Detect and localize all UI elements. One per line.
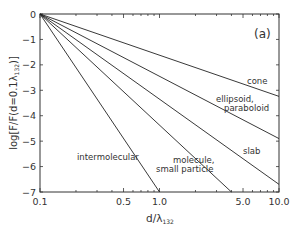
x-tick-label: 1.0 xyxy=(152,196,167,207)
y-tick-label: −7 xyxy=(22,187,36,198)
y-tick-label: −3 xyxy=(22,85,36,96)
series-label: intermolecular xyxy=(77,152,139,162)
series-label: slab xyxy=(243,146,260,156)
x-tick-label: 10.0 xyxy=(268,196,289,207)
series-line-ellipsoid-paraboloid xyxy=(40,14,279,139)
y-tick-label: −5 xyxy=(22,136,36,147)
chart-svg: 0.10.51.05.010.00−1−2−3−4−5−6−7coneellip… xyxy=(0,0,294,227)
series-line-cone xyxy=(40,14,279,96)
y-axis-label: log[F/F(d=0.1λ132)] xyxy=(8,56,20,150)
series-label: cone xyxy=(247,76,268,86)
y-tick-label: −4 xyxy=(22,110,36,121)
y-tick-label: −6 xyxy=(22,161,36,172)
y-tick-label: −2 xyxy=(22,59,36,70)
y-tick-label: 0 xyxy=(30,9,36,20)
x-tick-label: 5.0 xyxy=(235,196,250,207)
chart: 0.10.51.05.010.00−1−2−3−4−5−6−7coneellip… xyxy=(0,0,294,227)
y-tick-label: −1 xyxy=(22,34,36,45)
series-line-intermolecular xyxy=(40,14,160,192)
series-label: paraboloid xyxy=(224,103,269,113)
x-tick-label: 0.1 xyxy=(32,196,47,207)
panel-label: (a) xyxy=(254,27,271,41)
series-label: small particle xyxy=(156,164,213,174)
x-tick-label: 0.5 xyxy=(116,196,131,207)
x-axis-label: d/λ132 xyxy=(146,212,174,225)
